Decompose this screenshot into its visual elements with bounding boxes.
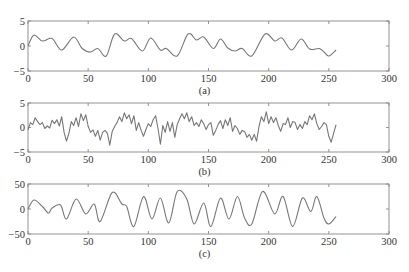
- x-tick-label: 100: [140, 236, 156, 247]
- x-tick-label: 250: [321, 73, 337, 84]
- x-tick-label: 150: [201, 236, 217, 247]
- axes-frame: [28, 21, 389, 71]
- x-tick-label: 200: [261, 154, 277, 165]
- x-tick-label: 0: [25, 73, 30, 84]
- x-tick-label: 250: [321, 154, 337, 165]
- y-tick-label: −50: [9, 229, 25, 240]
- panel-b: 050100150200250300−505(b): [14, 98, 397, 179]
- x-tick-label: 50: [83, 236, 94, 247]
- x-tick-label: 300: [381, 73, 397, 84]
- y-tick-label: 0: [20, 204, 25, 215]
- y-tick-label: 5: [20, 98, 25, 109]
- x-tick-label: 200: [261, 73, 277, 84]
- panel-caption: (c): [199, 248, 211, 260]
- series-line: [28, 33, 336, 56]
- y-tick-label: −5: [14, 147, 25, 158]
- y-tick-label: 50: [15, 179, 26, 190]
- x-tick-label: 100: [140, 73, 156, 84]
- y-tick-label: 0: [20, 122, 25, 133]
- panel-c: 050100150200250300−50050(c): [9, 179, 397, 261]
- figure: 050100150200250300−505(a)050100150200250…: [0, 0, 409, 272]
- x-tick-label: 300: [381, 236, 397, 247]
- panel-a: 050100150200250300−505(a): [14, 16, 397, 98]
- x-tick-label: 200: [261, 236, 277, 247]
- x-tick-label: 50: [83, 154, 94, 165]
- y-tick-label: 5: [20, 16, 25, 27]
- y-tick-label: 0: [20, 41, 25, 52]
- x-tick-label: 300: [381, 154, 397, 165]
- x-tick-label: 100: [140, 154, 156, 165]
- panel-caption: (a): [199, 85, 211, 97]
- y-tick-label: −5: [14, 66, 25, 77]
- panel-caption: (b): [198, 166, 211, 178]
- x-tick-label: 0: [25, 236, 30, 247]
- series-line: [28, 112, 336, 145]
- x-tick-label: 150: [201, 154, 217, 165]
- series-line: [28, 190, 336, 226]
- x-tick-label: 150: [201, 73, 217, 84]
- x-tick-label: 250: [321, 236, 337, 247]
- x-tick-label: 0: [25, 154, 30, 165]
- x-tick-label: 50: [83, 73, 94, 84]
